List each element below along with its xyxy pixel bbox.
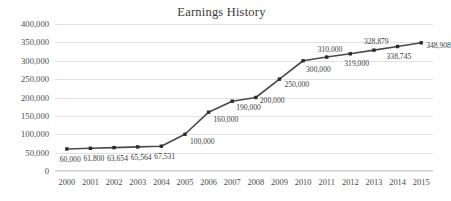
series-line-earnings [55,24,433,171]
x-axis-tick-label: 2010 [295,178,312,187]
y-axis-tick-label: 350,000 [21,37,49,47]
y-axis-tick-label: 150,000 [21,111,49,121]
x-axis-tick-label: 2000 [58,178,75,187]
x-axis-tick-label: 2012 [342,178,359,187]
data-point-marker [136,145,139,148]
data-point-marker [301,59,304,62]
data-point-label: 190,000 [236,103,261,112]
data-point-marker [349,52,352,55]
y-axis-tick-label: 50,000 [25,148,49,158]
data-point-marker [183,133,186,136]
data-point-label: 100,000 [190,137,215,146]
x-axis-tick-label: 2007 [224,178,241,187]
y-axis-tick-label: 400,000 [21,19,49,29]
y-axis-tick-label: 0 [45,166,49,176]
data-point-marker [278,77,281,80]
data-point-marker [396,45,399,48]
data-point-marker [89,147,92,150]
data-point-label: 338,745 [387,51,412,60]
x-axis-tick-label: 2005 [177,178,194,187]
x-axis-tick-label: 2011 [318,178,334,187]
data-point-label: 63,654 [107,153,128,162]
data-point-marker [65,147,68,150]
data-point-marker [112,146,115,149]
x-axis-tick-label: 2001 [82,178,99,187]
data-point-label: 328,879 [364,37,389,46]
y-axis-tick-label: 300,000 [21,56,49,66]
y-axis-tick-label: 100,000 [21,129,49,139]
x-axis-tick-label: 2002 [106,178,123,187]
x-axis-tick-label: 2014 [389,178,406,187]
x-axis-tick-label: 2015 [413,178,430,187]
data-point-marker [160,144,163,147]
data-point-marker [419,41,422,44]
x-axis-line [55,170,433,171]
data-point-marker [372,48,375,51]
x-axis-tick-label: 2008 [247,178,264,187]
data-point-label: 67,531 [154,152,175,161]
data-point-label: 300,000 [306,64,331,73]
data-point-label: 65,564 [131,152,152,161]
y-axis-tick-label: 250,000 [21,74,49,84]
x-axis-tick-label: 2003 [129,178,146,187]
plot-area: 050,000100,000150,000200,000250,000300,0… [55,24,433,171]
x-axis-tick-label: 2009 [271,178,288,187]
data-point-label: 310,000 [318,45,343,54]
data-point-marker [254,96,257,99]
gridline [55,171,433,172]
data-point-label: 160,000 [214,115,239,124]
data-point-marker [325,55,328,58]
data-point-label: 250,000 [284,80,309,89]
data-point-label: 200,000 [260,95,285,104]
data-point-label: 61,800 [83,154,104,163]
y-axis-tick-label: 200,000 [21,93,49,103]
x-axis-tick-label: 2006 [200,178,217,187]
data-point-marker [207,111,210,114]
data-point-label: 319,000 [344,58,369,67]
x-axis-tick-label: 2013 [366,178,383,187]
data-point-marker [230,99,233,102]
data-point-label: 348,908 [426,40,451,49]
data-point-label: 60,000 [60,154,81,163]
chart-title: Earnings History [0,5,443,20]
x-axis-tick-label: 2004 [153,178,170,187]
